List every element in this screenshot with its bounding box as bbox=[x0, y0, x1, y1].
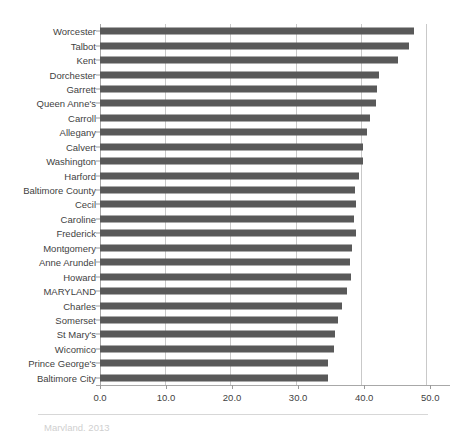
bar-row: Baltimore County bbox=[0, 183, 460, 197]
bar bbox=[100, 42, 409, 49]
bar-rows: WorcesterTalbotKentDorchesterGarrettQuee… bbox=[0, 24, 460, 385]
category-label: Montgomery bbox=[43, 242, 96, 253]
bar-row: Somerset bbox=[0, 313, 460, 327]
category-label: Carroll bbox=[68, 112, 96, 123]
bar-row: Calvert bbox=[0, 140, 460, 154]
x-axis-tick-label: 40.0 bbox=[355, 392, 374, 404]
x-axis-tick bbox=[100, 385, 101, 389]
category-label: Prince George's bbox=[28, 358, 96, 369]
category-label: Harford bbox=[64, 170, 96, 181]
category-label: Queen Anne's bbox=[37, 98, 96, 109]
x-axis-tick-label: 30.0 bbox=[289, 392, 308, 404]
x-axis-tick-label: 20.0 bbox=[223, 392, 242, 404]
category-label: Cecil bbox=[75, 199, 96, 210]
category-label: Worcester bbox=[53, 26, 96, 37]
x-axis-line bbox=[96, 385, 450, 386]
bar bbox=[100, 331, 335, 338]
category-label: St Mary's bbox=[57, 329, 96, 340]
bar-row: Carroll bbox=[0, 111, 460, 125]
bar bbox=[100, 273, 351, 280]
category-label: Baltimore County bbox=[23, 185, 96, 196]
category-label: Talbot bbox=[71, 40, 96, 51]
bar-row: Garrett bbox=[0, 82, 460, 96]
category-label: Washington bbox=[46, 156, 96, 167]
footer-divider bbox=[38, 414, 428, 415]
x-axis-tick bbox=[298, 385, 299, 389]
plot-area: WorcesterTalbotKentDorchesterGarrettQuee… bbox=[0, 0, 460, 431]
footer-caption: Maryland, 2013 bbox=[44, 422, 324, 431]
category-label: Calvert bbox=[66, 141, 96, 152]
bar-row: Allegany bbox=[0, 125, 460, 139]
x-axis-tick bbox=[364, 385, 365, 389]
bar bbox=[100, 201, 356, 208]
category-label: Caroline bbox=[61, 213, 96, 224]
category-label: Allegany bbox=[60, 127, 96, 138]
bar bbox=[100, 302, 342, 309]
bar-row: Wicomico bbox=[0, 342, 460, 356]
bar-row: Prince George's bbox=[0, 356, 460, 370]
bar bbox=[100, 143, 363, 150]
bar bbox=[100, 85, 377, 92]
bar bbox=[100, 215, 354, 222]
category-label: Baltimore City bbox=[37, 372, 96, 383]
bar-row: Caroline bbox=[0, 212, 460, 226]
x-axis-tick-label: 10.0 bbox=[157, 392, 176, 404]
category-label: Frederick bbox=[56, 228, 96, 239]
bar-row: Talbot bbox=[0, 38, 460, 52]
category-label: MARYLAND bbox=[43, 286, 96, 297]
x-axis-tick-label: 50.0 bbox=[421, 392, 440, 404]
category-label: Garrett bbox=[66, 83, 96, 94]
bar-row: Worcester bbox=[0, 24, 460, 38]
x-axis-tick bbox=[232, 385, 233, 389]
bar bbox=[100, 288, 347, 295]
category-label: Howard bbox=[63, 271, 96, 282]
bar bbox=[100, 100, 376, 107]
bar bbox=[100, 28, 414, 35]
bar-row: Howard bbox=[0, 269, 460, 283]
bar-row: Baltimore City bbox=[0, 371, 460, 385]
bar-row: Anne Arundel bbox=[0, 255, 460, 269]
bar bbox=[100, 345, 334, 352]
x-axis-tick bbox=[166, 385, 167, 389]
bar-row: Washington bbox=[0, 154, 460, 168]
category-label: Somerset bbox=[55, 314, 96, 325]
bar-row: Charles bbox=[0, 298, 460, 312]
bar-row: Queen Anne's bbox=[0, 96, 460, 110]
bar bbox=[100, 172, 359, 179]
bar bbox=[100, 360, 328, 367]
category-label: Wicomico bbox=[55, 343, 96, 354]
bar bbox=[100, 114, 370, 121]
bar bbox=[100, 158, 363, 165]
bar-row: Frederick bbox=[0, 226, 460, 240]
bar bbox=[100, 129, 367, 136]
bar bbox=[100, 187, 355, 194]
bar-row: Kent bbox=[0, 53, 460, 67]
bar-row: Harford bbox=[0, 168, 460, 182]
bar bbox=[100, 374, 328, 381]
bar bbox=[100, 259, 350, 266]
category-label: Charles bbox=[63, 300, 96, 311]
bar bbox=[100, 244, 352, 251]
bar bbox=[100, 230, 356, 237]
x-axis-tick bbox=[430, 385, 431, 389]
bar-chart: WorcesterTalbotKentDorchesterGarrettQuee… bbox=[0, 0, 460, 431]
category-label: Kent bbox=[76, 55, 96, 66]
bar-row: Dorchester bbox=[0, 67, 460, 81]
category-label: Dorchester bbox=[50, 69, 96, 80]
bar-row: Montgomery bbox=[0, 241, 460, 255]
bar-row: Cecil bbox=[0, 197, 460, 211]
bar bbox=[100, 316, 338, 323]
bar bbox=[100, 71, 379, 78]
x-axis-tick-label: 0.0 bbox=[93, 392, 106, 404]
bar-row: MARYLAND bbox=[0, 284, 460, 298]
category-label: Anne Arundel bbox=[39, 257, 96, 268]
bar-row: St Mary's bbox=[0, 327, 460, 341]
bar bbox=[100, 57, 398, 64]
